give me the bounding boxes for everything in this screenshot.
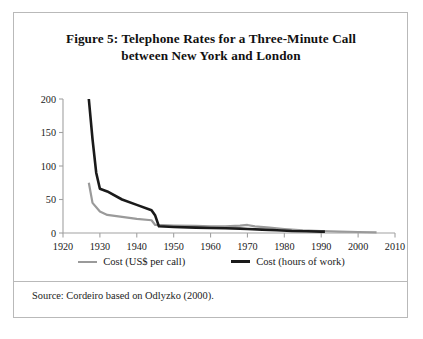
x-axis-tick-labels: 1920193019401950196019701980199020002010 — [53, 241, 405, 252]
x-tick-label-1930: 1930 — [90, 241, 110, 252]
x-tick-label-2000: 2000 — [348, 241, 368, 252]
x-tick-label-1970: 1970 — [237, 241, 257, 252]
x-tick-label-1920: 1920 — [53, 241, 73, 252]
y-tick-label-100: 100 — [41, 161, 56, 172]
chart-plot-area: 050100150200 192019301940195019601970198… — [14, 75, 409, 255]
y-axis-tick-labels: 050100150200 — [41, 94, 56, 239]
source-divider — [14, 281, 408, 282]
legend-item-cost-usd: Cost (US$ per call) — [78, 256, 185, 267]
legend-swatch-cost-hours-icon — [231, 260, 250, 263]
x-tick-label-1950: 1950 — [163, 241, 183, 252]
x-tick-label-1980: 1980 — [274, 241, 294, 252]
chart-tick-marks — [59, 99, 395, 238]
source-note: Source: Cordeiro based on Odlyzko (2000)… — [32, 290, 214, 301]
legend-swatch-cost-usd-icon — [78, 261, 97, 263]
y-tick-label-0: 0 — [51, 228, 56, 239]
line-chart-svg: 050100150200 192019301940195019601970198… — [14, 75, 409, 255]
legend-label-cost-usd: Cost (US$ per call) — [103, 256, 185, 267]
series-line-cost-usd — [89, 183, 377, 233]
figure-title-line-2: between New York and London — [32, 47, 390, 64]
x-tick-label-1990: 1990 — [311, 241, 331, 252]
y-tick-label-200: 200 — [41, 94, 56, 105]
y-tick-label-150: 150 — [41, 127, 56, 138]
y-tick-label-50: 50 — [46, 194, 56, 205]
series-line-cost-hours — [89, 99, 325, 232]
x-tick-label-1940: 1940 — [127, 241, 147, 252]
legend-label-cost-hours: Cost (hours of work) — [256, 256, 345, 267]
chart-axes — [63, 99, 395, 233]
figure-title: Figure 5: Telephone Rates for a Three-Mi… — [32, 30, 390, 64]
figure-title-line-1: Figure 5: Telephone Rates for a Three-Mi… — [32, 30, 390, 47]
chart-series-layer — [89, 99, 377, 232]
chart-legend: Cost (US$ per call) Cost (hours of work) — [14, 256, 409, 267]
figure-frame: Figure 5: Telephone Rates for a Three-Mi… — [13, 12, 408, 318]
legend-item-cost-hours: Cost (hours of work) — [231, 256, 345, 267]
x-tick-label-1960: 1960 — [200, 241, 220, 252]
x-tick-label-2010: 2010 — [385, 241, 405, 252]
